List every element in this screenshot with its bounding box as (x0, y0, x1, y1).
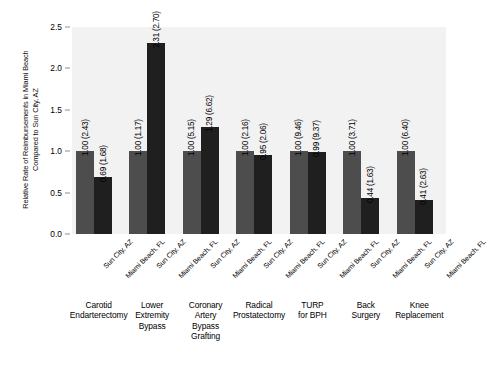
bar-sun-city-az[interactable] (183, 151, 201, 234)
y-axis-tick-mark (65, 151, 70, 152)
bar-value-label: 1.00 (1.17) (134, 119, 143, 156)
y-axis-tick-label: 2.0 (50, 63, 62, 73)
y-axis-tick-mark (65, 109, 70, 110)
bar-value-label: 0.99 (9.37) (312, 120, 321, 157)
bar-miami-beach-fl[interactable] (254, 155, 272, 234)
bar-sun-city-az[interactable] (397, 151, 415, 234)
bar-value-label: 0.41 (2.63) (419, 168, 428, 205)
bar-value-label: 1.00 (6.40) (401, 119, 410, 156)
bar-group (72, 27, 125, 234)
bar-sun-city-az[interactable] (343, 151, 361, 234)
x-sublabel-sun-city-az: Sun City, AZ (102, 238, 134, 270)
bar-value-label: 0.44 (1.63) (366, 166, 375, 203)
bar-value-label: 1.00 (2.16) (241, 119, 250, 156)
y-axis-tick-mark (65, 192, 70, 193)
bar-value-label: 1.29 (6.62) (205, 95, 214, 132)
bar-value-label: 1.00 (3.71) (348, 119, 357, 156)
bar-miami-beach-fl[interactable] (308, 152, 326, 234)
y-axis-tick-mark (65, 27, 70, 28)
bar-miami-beach-fl[interactable] (94, 177, 112, 234)
x-axis-sublabels: Sun City, AZMiami Beach, FLSun City, AZM… (72, 234, 446, 296)
y-axis-tick-mark (65, 234, 70, 235)
bar-sun-city-az[interactable] (290, 151, 308, 234)
bar-sun-city-az[interactable] (76, 151, 94, 234)
bar-value-label: 2.31 (2.70) (152, 11, 161, 48)
bar-sun-city-az[interactable] (236, 151, 254, 234)
y-axis: 0.00.51.01.52.02.5 (0, 0, 72, 371)
bar-value-label: 1.00 (2.43) (81, 119, 90, 156)
y-axis-tick-mark (65, 68, 70, 69)
x-axis-category-labels: Carotid EndarterectomyLower Extremity By… (72, 300, 446, 368)
bar-miami-beach-fl[interactable] (201, 127, 219, 234)
bar-value-label: 1.00 (9.46) (294, 119, 303, 156)
y-axis-tick-label: 1.5 (50, 105, 62, 115)
y-axis-tick-label: 0.0 (50, 229, 62, 239)
x-axis-category-label: Knee Replacement (385, 300, 454, 321)
y-axis-tick-label: 1.0 (50, 146, 62, 156)
bar-value-label: 0.69 (1.68) (99, 145, 108, 182)
bar-miami-beach-fl[interactable] (361, 198, 379, 234)
bar-miami-beach-fl[interactable] (147, 43, 165, 234)
bar-value-label: 0.95 (2.06) (259, 123, 268, 160)
bar-miami-beach-fl[interactable] (415, 200, 433, 234)
bar-sun-city-az[interactable] (129, 151, 147, 234)
y-axis-tick-label: 0.5 (50, 188, 62, 198)
bar-value-label: 1.00 (5.15) (187, 119, 196, 156)
plot-area: 1.00 (2.43)0.69 (1.68)1.00 (1.17)2.31 (2… (72, 27, 446, 234)
y-axis-tick-label: 2.5 (50, 22, 62, 32)
